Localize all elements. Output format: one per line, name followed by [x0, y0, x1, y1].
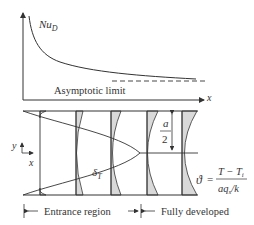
nusselt-plot: NuD x Asymptotic limit — [23, 13, 212, 103]
region-labels: Entrance region Fully developed — [24, 204, 230, 218]
profile-3 — [111, 111, 121, 195]
fully-developed-label: Fully developed — [161, 206, 230, 217]
asymptotic-label: Asymptotic limit — [54, 85, 126, 96]
half-width-num: a — [163, 117, 169, 129]
coord-y-label: y — [11, 140, 17, 151]
profile-1 — [40, 111, 46, 195]
boundary-layer-curve — [23, 111, 140, 195]
coord-x-label: x — [28, 157, 34, 168]
svg-text:ϑ: ϑ — [196, 173, 203, 187]
boundary-layer-label: δT — [92, 166, 102, 181]
diagram-canvas: NuD x Asymptotic limit a 2 — [0, 0, 254, 225]
coordinate-axes: y x — [11, 140, 34, 168]
x-axis-label: x — [206, 92, 212, 103]
svg-text:=: = — [207, 173, 213, 185]
svg-text:T − Ti: T − Ti — [218, 166, 244, 179]
dimensionless-temperature-formula: ϑ = T − Ti aqs/k — [196, 166, 247, 196]
nu-label: NuD — [38, 18, 58, 33]
svg-text:aqs/k: aqs/k — [218, 183, 239, 196]
entrance-region-label: Entrance region — [44, 206, 112, 217]
profile-2 — [76, 111, 83, 195]
channel-diagram: a 2 δT y x ϑ = T − Ti aqs/k — [11, 111, 247, 196]
half-width-den: 2 — [162, 133, 168, 145]
